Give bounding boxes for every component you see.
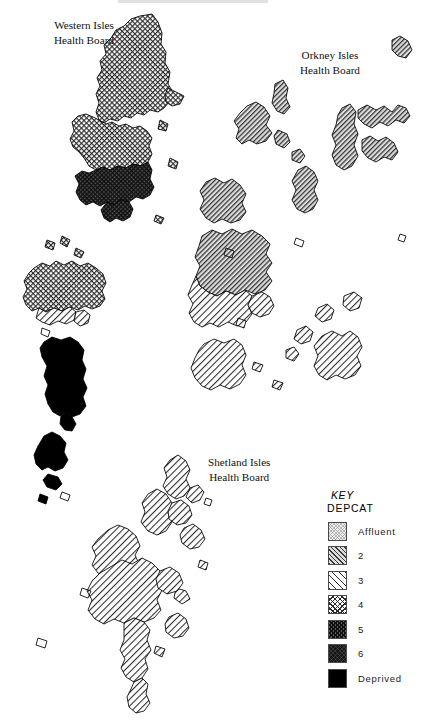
region-whalsay [180,524,205,549]
region-outlier-a [41,328,50,337]
region-benbecula-east [74,310,90,326]
legend-swatch-icon [328,522,347,541]
region-orkney-burray [248,292,274,317]
region-vatersay [43,474,62,490]
region-north-uist [23,261,106,312]
region-rousay [234,102,272,144]
region-lewis-east-spur [165,88,184,106]
region-shetland-islet-c [154,646,165,657]
legend-row: 3 [325,568,425,593]
legend-label: Deprived [358,673,402,684]
region-south-ronaldsay [314,331,362,380]
legend-swatch-icon [328,669,347,688]
legend-label: 6 [358,648,364,659]
region-shetland-south [120,618,151,682]
region-swona [315,304,334,322]
region-unst [163,455,190,499]
legend-label: 2 [358,550,364,561]
region-sanday [358,105,410,128]
legend-label: 3 [358,575,364,586]
region-benbecula [36,307,76,325]
region-shapinsay [200,178,246,223]
legend-subtitle: DEPCAT [327,502,425,514]
label-western-line2: Health Board [54,33,114,48]
region-papa-westray [392,36,412,58]
legend-row: 6 [325,642,425,667]
region-shetland-islet-b [204,498,212,506]
legend-label: 4 [358,599,364,610]
region-barra [34,432,68,471]
label-orkney-line1: Orkney Isles [300,48,360,63]
region-flotta [294,326,313,344]
legend-swatch-icon [328,546,347,565]
region-harris [75,162,154,206]
region-gairsay [292,149,305,163]
legend-row: Affluent [325,519,425,544]
region-uist-isle-a [45,240,55,250]
region-westray [272,80,290,114]
label-orkney-line2: Health Board [300,63,360,78]
label-western-line1: Western Isles [54,18,114,33]
region-isle-small-a [158,120,168,131]
region-outlier-b [60,492,70,501]
label-orkney-isles-health-board: Orkney Isles Health Board [300,48,360,78]
region-orkney-islet-b [252,362,263,372]
legend-label: Affluent [358,526,396,537]
legend-row: 4 [325,593,425,618]
region-copinsay [343,292,362,311]
region-orkney-islet-f [398,234,406,242]
legend-swatch-icon [328,620,347,639]
region-mingulay [38,494,48,504]
region-wyre [274,130,290,148]
region-orkney-mainland-nw [195,229,272,296]
label-shetland-isles-health-board: Shetland Isles Health Board [208,455,270,485]
region-isle-small-b [168,158,178,169]
region-harris-south [101,200,133,222]
region-yell-east [168,500,192,525]
region-uist-isle-c [74,248,84,258]
legend-swatch-icon [328,644,347,663]
label-shetland-line2: Health Board [208,470,270,485]
region-foula [36,638,47,648]
legend-title: KEY [331,489,425,501]
region-stronsay [292,166,318,213]
legend-row: 2 [325,544,425,569]
region-orkney-islet-e [294,238,304,247]
region-hoy [191,339,246,390]
region-lewis-west [70,114,152,170]
legend-label: 5 [358,624,364,635]
region-shetland-sumburgh [127,678,150,713]
legend-items: Affluent23456Deprived [325,519,425,691]
region-uist-isle-b [60,236,70,247]
region-graemsay [286,347,299,361]
region-south-uist [40,337,87,417]
region-north-ronaldsay [332,104,358,170]
region-bressay [165,613,189,638]
map-canvas: Western Isles Health Board Orkney Isles … [0,0,429,728]
region-isle-small-c [154,215,164,224]
legend-row: 5 [325,617,425,642]
legend-row: Deprived [325,666,425,691]
label-shetland-line1: Shetland Isles [208,455,270,470]
label-western-isles-health-board: Western Isles Health Board [54,18,114,48]
legend-swatch-icon [328,571,347,590]
region-eday [362,136,398,162]
region-shetland-islet-a [198,560,208,570]
map-legend: KEY DEPCAT Affluent23456Deprived [325,489,425,691]
legend-swatch-icon [328,595,347,614]
region-yell [141,489,172,535]
region-orkney-islet-c [272,380,283,390]
